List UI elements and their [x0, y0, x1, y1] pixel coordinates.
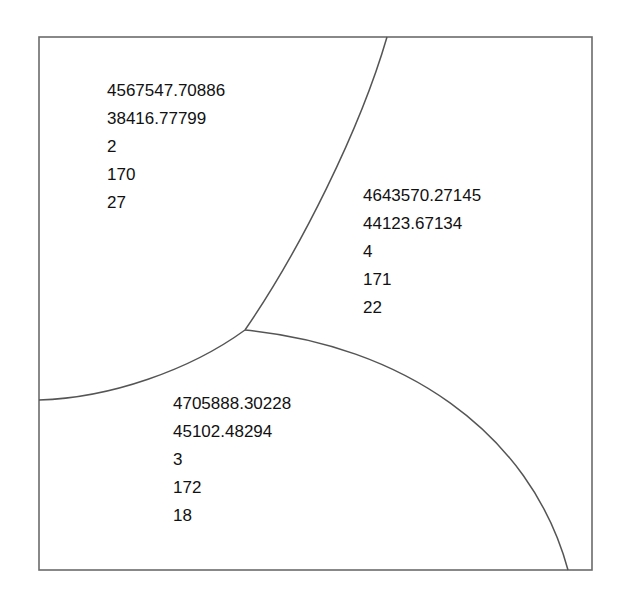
- cell-value-area: 4567547.70886: [107, 77, 225, 105]
- partition-diagram: 4567547.70886 38416.77799 2 170 27 46435…: [0, 0, 635, 597]
- cell-value-perimeter: 44123.67134: [363, 210, 481, 238]
- cell-value-perimeter: 45102.48294: [173, 418, 291, 446]
- cell-value-index: 4: [363, 238, 481, 266]
- cell-value-id: 172: [173, 474, 291, 502]
- cell-value-index: 3: [173, 446, 291, 474]
- cell-value-count: 27: [107, 189, 225, 217]
- cell-label-top-left: 4567547.70886 38416.77799 2 170 27: [107, 77, 225, 217]
- partition-svg: [0, 0, 635, 597]
- cell-value-area: 4643570.27145: [363, 182, 481, 210]
- cell-value-id: 170: [107, 161, 225, 189]
- cell-value-id: 171: [363, 266, 481, 294]
- cell-value-perimeter: 38416.77799: [107, 105, 225, 133]
- cell-value-count: 18: [173, 502, 291, 530]
- cell-value-area: 4705888.30228: [173, 390, 291, 418]
- cell-value-index: 2: [107, 133, 225, 161]
- cell-value-count: 22: [363, 294, 481, 322]
- cell-label-right: 4643570.27145 44123.67134 4 171 22: [363, 182, 481, 322]
- cell-label-bottom-left: 4705888.30228 45102.48294 3 172 18: [173, 390, 291, 530]
